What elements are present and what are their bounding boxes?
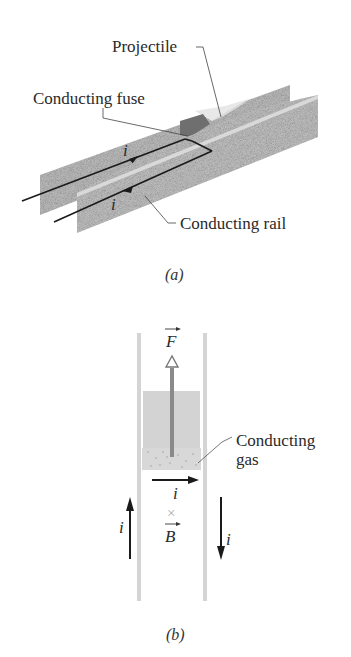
projectile-label: Projectile (112, 38, 177, 55)
conducting-gas-label-line2: gas (236, 451, 259, 468)
conducting-rail-label: Conducting rail (180, 215, 286, 232)
current-arrow-right (217, 546, 225, 560)
current-arrow-middle (188, 476, 199, 484)
conducting-fuse-label: Conducting fuse (33, 90, 145, 107)
current-label-top: i (123, 142, 128, 159)
field-into-page-symbol: × (167, 506, 175, 521)
force-arrow-shaft (170, 368, 174, 457)
current-label-middle: i (173, 485, 178, 502)
current-arrow-left (126, 497, 134, 511)
caption-a: (a) (165, 266, 184, 284)
magnetic-field-label: B (165, 528, 175, 545)
current-label-right: i (226, 531, 231, 548)
conducting-gas-label-line1: Conducting (236, 432, 315, 449)
current-label-bottom: i (111, 196, 116, 213)
projectile-leader (196, 47, 221, 117)
caption-b: (b) (166, 626, 185, 644)
gas-leader (198, 437, 232, 463)
conducting-gas (142, 448, 201, 470)
right-rail (203, 333, 207, 601)
current-label-left: i (119, 519, 124, 536)
force-label: F (166, 333, 176, 350)
force-arrow-head (166, 356, 178, 367)
left-rail (137, 333, 141, 601)
projectile-top (143, 391, 200, 449)
